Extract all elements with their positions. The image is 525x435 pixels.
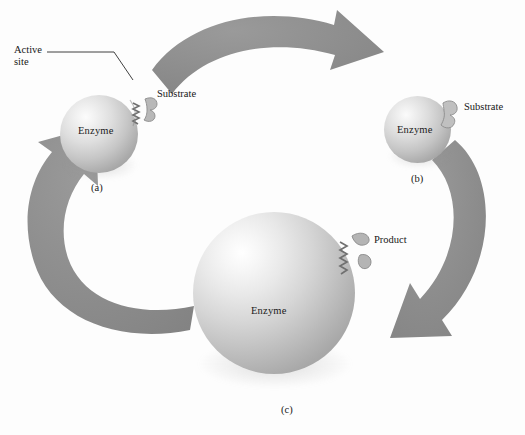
- product-fragment-lower: [358, 254, 371, 268]
- panel-c-details-layer: [0, 0, 525, 435]
- active-site-notch-c: [340, 242, 347, 274]
- product-label: Product: [374, 234, 407, 246]
- enzyme-cycle-figure: Active site Enzyme Substrate (a) Enzyme …: [0, 0, 525, 435]
- enzyme-label-c: Enzyme: [251, 305, 287, 316]
- panel-letter-c: (c): [281, 404, 293, 416]
- product-fragment-upper: [352, 233, 369, 245]
